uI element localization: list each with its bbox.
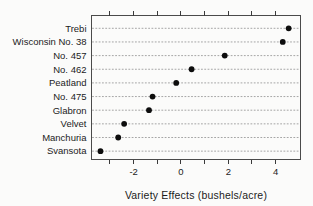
x-axis-tick-label: 0 — [178, 166, 183, 177]
category-label: Peatland — [49, 77, 87, 88]
category-label: Glabron — [53, 105, 87, 116]
data-point — [189, 66, 195, 72]
x-axis-tick-label: 2 — [226, 166, 231, 177]
x-axis-tick-label: -2 — [129, 166, 137, 177]
dot-plot-figure: -2024TrebiWisconsin No. 38No. 457No. 462… — [0, 0, 313, 206]
category-label: No. 462 — [53, 64, 86, 75]
category-label: Svansota — [47, 145, 87, 156]
data-point — [286, 25, 292, 31]
data-point — [146, 107, 152, 113]
category-label: Trebi — [65, 23, 86, 34]
category-label: No. 475 — [53, 91, 86, 102]
category-label: Wisconsin No. 38 — [13, 36, 87, 47]
data-point — [150, 94, 156, 100]
data-point — [98, 148, 104, 154]
data-point — [280, 39, 286, 45]
x-axis-tick-label: 4 — [273, 166, 278, 177]
x-axis-title: Variety Effects (bushels/acre) — [81, 189, 311, 201]
dot-plot-chart: -2024TrebiWisconsin No. 38No. 457No. 462… — [0, 0, 313, 206]
data-point — [222, 53, 228, 59]
category-label: Velvet — [61, 118, 87, 129]
category-label: No. 457 — [53, 50, 86, 61]
data-point — [173, 80, 179, 86]
data-point — [121, 121, 127, 127]
category-label: Manchuria — [42, 132, 87, 143]
data-point — [115, 135, 121, 141]
